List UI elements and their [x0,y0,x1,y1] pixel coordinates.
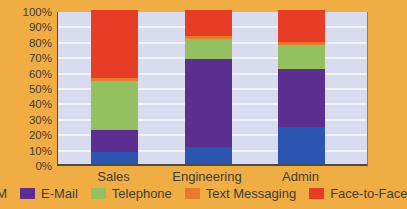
legend-swatch [20,188,35,199]
legend-item-telephone: Telephone [91,186,172,201]
segment-e-mail-sales [91,130,138,152]
segment-telephone-admin [278,45,325,68]
segment-telephone-engineering [185,39,232,59]
legend-item-face-to-face: Face-to-Face [309,186,407,201]
y-tick-label: 40% [0,97,52,111]
segment-face-to-face-admin [278,10,325,42]
y-tick-label: 60% [0,67,52,81]
legend-item-text-messaging: Text Messaging [185,186,296,201]
y-tick-label: 100% [0,5,52,19]
segment-telephone-sales [91,81,138,130]
y-axis: 100%90%80%70%60%50%40%30%20%10%0% [0,0,52,180]
plot-area [57,12,368,166]
y-tick-label: 30% [0,113,52,127]
legend-label: IM [0,186,7,201]
segment-im-engineering [185,147,232,164]
segment-face-to-face-engineering [185,10,232,36]
segment-im-admin [278,127,325,164]
category-label-admin: Admin [241,169,361,184]
y-tick-label: 20% [0,128,52,142]
segment-e-mail-engineering [185,59,232,147]
legend-item-im: IM [0,186,7,201]
bar-admin [278,10,325,164]
segment-face-to-face-sales [91,10,138,78]
legend-item-e-mail: E-Mail [20,186,78,201]
legend: IME-MailTelephoneText MessagingFace-to-F… [0,186,379,201]
bar-engineering [185,10,232,164]
legend-label: Face-to-Face [330,186,407,201]
segment-im-sales [91,152,138,164]
x-axis-category-labels: SalesEngineeringAdmin [0,169,379,185]
legend-swatch [309,188,324,199]
segment-e-mail-admin [278,69,325,128]
legend-label: Text Messaging [206,186,296,201]
y-tick-label: 90% [0,20,52,34]
bar-sales [91,10,138,164]
y-tick-label: 50% [0,82,52,96]
y-tick-label: 10% [0,144,52,158]
y-tick-label: 80% [0,36,52,50]
legend-swatch [185,188,200,199]
legend-label: E-Mail [41,186,78,201]
y-tick-label: 70% [0,51,52,65]
legend-label: Telephone [112,186,172,201]
legend-swatch [91,188,106,199]
